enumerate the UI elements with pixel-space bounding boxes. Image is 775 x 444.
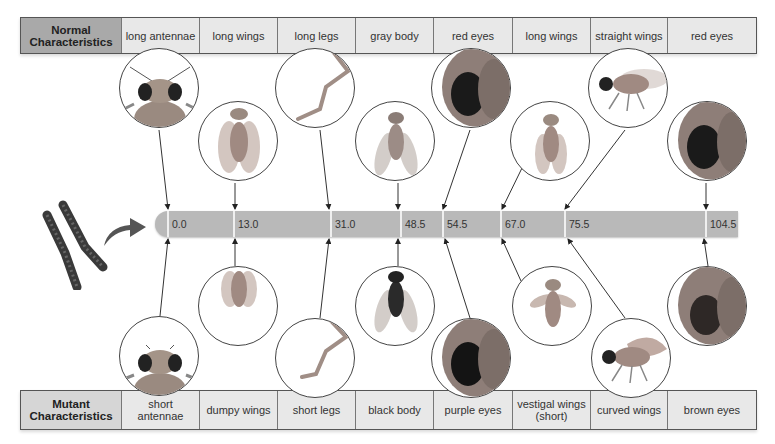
locus-54-5: 54.5 xyxy=(442,211,500,237)
mutant-brown-eyes-illustration xyxy=(667,266,747,346)
mutant-characteristics-table: Mutant Characteristics short antennae du… xyxy=(20,390,757,430)
normal-red-eyes-illustration-2 xyxy=(667,101,747,181)
chromosome-map-bar: 0.0 13.0 31.0 48.5 54.5 67.0 75.5 104.5 xyxy=(155,211,738,237)
locus-104-5: 104.5 xyxy=(705,211,738,237)
mutant-header: Mutant Characteristics xyxy=(21,391,121,429)
fly-eye-red-icon xyxy=(432,49,511,128)
normal-long-wings-illustration-2 xyxy=(510,101,590,181)
fly-leg-short-icon xyxy=(276,319,355,398)
fly-black-body-icon xyxy=(356,267,435,346)
mutant-black-body-illustration xyxy=(355,266,435,346)
normal-red-eyes-illustration xyxy=(431,48,511,128)
normal-long-legs-illustration xyxy=(275,48,355,128)
mutant-purple-eyes-illustration xyxy=(431,318,511,398)
normal-trait-4: gray body xyxy=(355,18,433,53)
mutant-trait-2: dumpy wings xyxy=(199,391,277,429)
normal-long-wings-illustration xyxy=(198,101,278,181)
locus-67: 67.0 xyxy=(500,211,564,237)
normal-trait-6: long wings xyxy=(512,18,590,53)
normal-header: Normal Characteristics xyxy=(21,18,121,53)
fly-straight-wings-icon xyxy=(589,49,668,128)
normal-trait-2: long wings xyxy=(199,18,277,53)
locus-0: 0.0 xyxy=(167,211,233,237)
mutant-curved-wings-illustration xyxy=(591,318,671,398)
locus-48-5: 48.5 xyxy=(400,211,442,237)
fly-leg-long-icon xyxy=(276,49,355,128)
normal-gray-body-illustration xyxy=(355,101,435,181)
normal-characteristics-table: Normal Characteristics long antennae lon… xyxy=(20,17,757,54)
fly-dumpy-wings-icon xyxy=(199,267,278,346)
mutant-short-antennae-illustration xyxy=(119,316,199,396)
fly-eye-red-icon xyxy=(668,102,747,181)
fly-eye-brown-icon xyxy=(668,267,747,346)
fly-vestigial-wings-icon xyxy=(513,267,592,346)
normal-straight-wings-illustration xyxy=(588,48,668,128)
fly-eye-purple-icon xyxy=(432,319,511,398)
normal-long-antennae-illustration xyxy=(119,48,199,128)
curved-arrow-icon xyxy=(100,213,150,248)
locus-31: 31.0 xyxy=(330,211,400,237)
mutant-short-legs-illustration xyxy=(275,318,355,398)
fly-head-short-antennae-icon xyxy=(120,317,199,396)
fly-curved-wings-icon xyxy=(592,319,671,398)
locus-75-5: 75.5 xyxy=(564,211,705,237)
mutant-trait-4: black body xyxy=(355,391,433,429)
fly-long-wings-icon xyxy=(199,102,278,181)
mutant-vestigial-wings-illustration xyxy=(512,266,592,346)
mutant-trait-6: vestigal wings (short) xyxy=(512,391,590,429)
locus-13: 13.0 xyxy=(233,211,330,237)
mutant-trait-1: short antennae xyxy=(121,391,199,429)
mutant-trait-8: brown eyes xyxy=(667,391,756,429)
fly-long-wings-icon xyxy=(511,102,590,181)
mutant-dumpy-wings-illustration xyxy=(198,266,278,346)
fly-head-antennae-icon xyxy=(120,49,199,128)
fly-gray-body-icon xyxy=(356,102,435,181)
normal-trait-8: red eyes xyxy=(667,18,756,53)
